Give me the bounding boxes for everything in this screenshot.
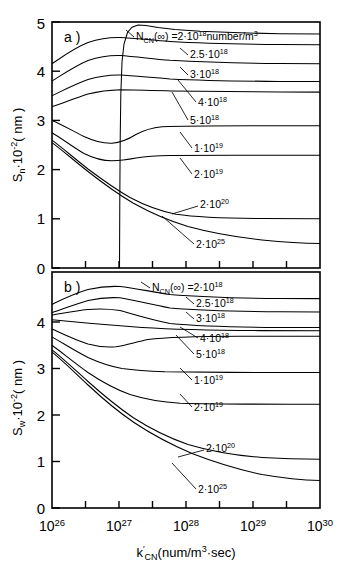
legend-b-sym: N bbox=[152, 281, 160, 293]
panel-a-label-1e19: 1·1019 bbox=[180, 132, 223, 154]
svg-text:2·1020: 2·1020 bbox=[200, 197, 229, 210]
panel-a-label-2e20: 2·1020 bbox=[172, 197, 229, 214]
panel-b-curve-6 bbox=[52, 337, 320, 373]
panel-b-ytick-4: 4 bbox=[37, 314, 45, 331]
svg-text:5·1018: 5·1018 bbox=[196, 347, 225, 360]
legend-a-sub: CN bbox=[144, 36, 154, 45]
svg-text:3·1018: 3·1018 bbox=[190, 67, 219, 80]
xtick-2-mantissa: 10 bbox=[173, 518, 189, 534]
svg-text:2·1025: 2·1025 bbox=[198, 482, 227, 495]
svg-text:5·1018: 5·1018 bbox=[190, 113, 219, 126]
panel-a-label-4e18: 4·1018 bbox=[178, 80, 227, 108]
panel-b-label-2e25: 2·1025 bbox=[172, 463, 227, 495]
svg-text:2·1025: 2·1025 bbox=[196, 237, 225, 250]
panel-a-ytick-2: 2 bbox=[37, 161, 45, 178]
svg-text:Sn·10-2( nm ): Sn·10-2( nm ) bbox=[9, 108, 27, 182]
panel-a-ytick-5: 5 bbox=[37, 15, 45, 32]
xlabel-sub: CN bbox=[145, 552, 158, 562]
legend-b-sub: CN bbox=[160, 287, 170, 296]
panel-b-curve-5 bbox=[52, 329, 320, 347]
legend-a-unit: number/m bbox=[207, 30, 255, 42]
panel-a-ytick-3: 3 bbox=[37, 112, 45, 129]
xtick-0-exp: 26 bbox=[55, 517, 66, 528]
panel-a-xticks bbox=[86, 261, 287, 268]
panel-b-frame bbox=[52, 272, 320, 508]
panel-a-ytick-4: 4 bbox=[37, 63, 45, 80]
panel-b-curve-7 bbox=[52, 345, 320, 404]
svg-text:Sw·10-2( nm ): Sw·10-2( nm ) bbox=[9, 360, 27, 436]
svg-text:2.5·1018: 2.5·1018 bbox=[190, 47, 228, 60]
svg-text:1030: 1030 bbox=[307, 517, 333, 534]
xlabel-rest2: ·sec) bbox=[207, 545, 236, 560]
xtick-1-mantissa: 10 bbox=[106, 518, 122, 534]
panel-a-tag: a ) bbox=[64, 29, 80, 45]
legend-a-sym: N bbox=[136, 30, 144, 42]
svg-text:1027: 1027 bbox=[106, 517, 132, 534]
x-axis-title: k′CN(num/m3·sec) bbox=[136, 544, 235, 562]
panel-b-label-3e18: 3·1018 bbox=[186, 311, 225, 324]
xtick-0-mantissa: 10 bbox=[39, 518, 55, 534]
svg-text:1029: 1029 bbox=[240, 517, 266, 534]
svg-text:k′CN(num/m3·sec): k′CN(num/m3·sec) bbox=[136, 544, 235, 562]
panel-b-ytick-3: 3 bbox=[37, 360, 45, 377]
panel-b-xticks bbox=[86, 501, 287, 508]
svg-text:1026: 1026 bbox=[39, 517, 65, 534]
panel-a-curve-2 bbox=[52, 55, 320, 81]
legend-a-exp: 18 bbox=[199, 29, 207, 38]
xtick-4-exp: 30 bbox=[323, 517, 334, 528]
xtick-3-exp: 29 bbox=[256, 517, 267, 528]
xtick-3-mantissa: 10 bbox=[240, 518, 256, 534]
panel-b-ytick-0: 0 bbox=[37, 500, 45, 517]
svg-text:4·1018: 4·1018 bbox=[198, 95, 227, 108]
svg-text:NCN(∞) =2·1018: NCN(∞) =2·1018 bbox=[152, 280, 223, 296]
panel-a-ylabel: Sn·10-2( nm ) bbox=[9, 108, 27, 182]
panel-b-ytick-1: 1 bbox=[37, 453, 45, 470]
xlabel-rest1: (num/m bbox=[158, 545, 202, 560]
panel-b-ytick-2: 2 bbox=[37, 407, 45, 424]
panel-b-label-2e20: 2·1020 bbox=[178, 441, 235, 457]
svg-text:2·1019: 2·1019 bbox=[194, 400, 223, 413]
xtick-4-mantissa: 10 bbox=[307, 518, 323, 534]
panel-a-ytick-1: 1 bbox=[37, 210, 45, 227]
panel-a-curve-7 bbox=[52, 140, 320, 219]
svg-text:1028: 1028 bbox=[173, 517, 199, 534]
svg-text:1·1019: 1·1019 bbox=[194, 141, 223, 154]
panel-a-curve-6 bbox=[52, 133, 320, 161]
panel-b-ylabel: Sw·10-2( nm ) bbox=[9, 360, 27, 436]
panel-b: 0 1 2 3 4 b ) bbox=[9, 272, 320, 517]
panel-a-label-3e18: 3·1018 bbox=[180, 67, 219, 80]
svg-text:4·1018: 4·1018 bbox=[200, 331, 229, 344]
panel-a-label-2p5e18: 2.5·1018 bbox=[180, 47, 228, 60]
svg-text:2·1019: 2·1019 bbox=[194, 167, 223, 180]
panel-b-curve-2 bbox=[52, 298, 320, 313]
legend-b-arg: (∞) = bbox=[170, 281, 194, 293]
panel-a-curve-8 bbox=[52, 143, 320, 244]
legend-a-value: 2·10 bbox=[178, 30, 199, 42]
legend-b-value: 2·10 bbox=[194, 281, 215, 293]
figure-svg: 0 1 2 3 4 5 a ) bbox=[0, 0, 339, 573]
legend-b-exp: 18 bbox=[215, 280, 223, 289]
panel-a: 0 1 2 3 4 5 a ) bbox=[9, 15, 320, 277]
svg-text:2·1020: 2·1020 bbox=[206, 441, 235, 454]
panel-a-curve-4 bbox=[52, 90, 320, 107]
xtick-2-exp: 28 bbox=[189, 517, 200, 528]
panel-a-ytick-0: 0 bbox=[37, 260, 45, 277]
figure-container: 0 1 2 3 4 5 a ) bbox=[0, 0, 339, 573]
xtick-1-exp: 27 bbox=[122, 517, 133, 528]
panel-b-label-1e19: 1·1019 bbox=[180, 368, 223, 386]
legend-a-unit-exp: 3 bbox=[254, 29, 258, 38]
svg-text:3·1018: 3·1018 bbox=[196, 311, 225, 324]
panel-b-label-2p5e18: 2.5·1018 bbox=[186, 296, 234, 309]
panel-a-label-2e19: 2·1019 bbox=[180, 158, 223, 180]
svg-text:2.5·1018: 2.5·1018 bbox=[196, 296, 234, 309]
legend-a-arg: (∞) = bbox=[154, 30, 178, 42]
svg-text:1·1019: 1·1019 bbox=[194, 373, 223, 386]
panel-b-legend-head: NCN(∞) =2·1018 bbox=[141, 280, 223, 296]
x-axis-ticklabels: 1026 1027 1028 1029 1030 bbox=[39, 517, 333, 534]
